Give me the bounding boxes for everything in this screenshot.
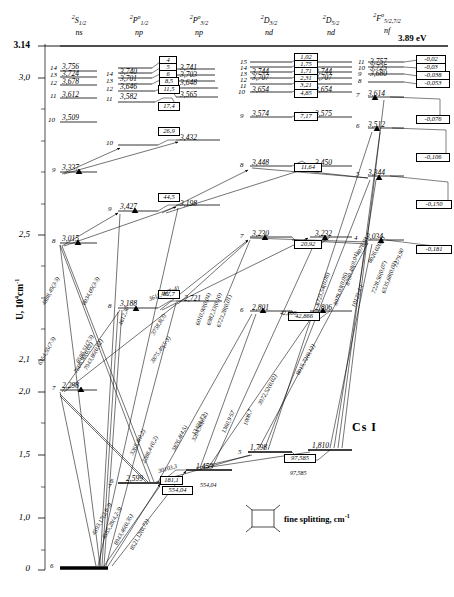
level-value-nf-9: 3,680	[370, 69, 387, 78]
y-tick-1-0: 1,0	[0, 513, 30, 522]
ionization-energy-label: 3.89 eV	[398, 33, 427, 43]
y-tick-2-5: 2,5	[0, 230, 30, 239]
config-np12: np	[108, 28, 170, 37]
fine-splitting-nd-5: 4,85	[294, 89, 318, 98]
level-value-np12-9: 3,427	[120, 202, 137, 211]
y-axis-title: U, 104cm-1	[14, 279, 25, 320]
level-n-ns-13: 13	[50, 71, 57, 79]
level-value-nd32-7: 3,230	[252, 229, 269, 238]
fine-splitting-np-4: 11,5	[158, 85, 180, 94]
fine-splitting-nf-6: -0,150	[416, 200, 452, 209]
level-value-nd32-6: 2,801	[252, 303, 269, 312]
y-tick-1-5: 1,5	[0, 450, 30, 459]
level-n-ns-8: 8	[52, 237, 56, 245]
transition-label: 42,866	[280, 310, 297, 316]
term-symbol-np12: 2Po1/2	[108, 14, 170, 26]
level-value-nf-5: 3,344	[368, 168, 385, 177]
y-tick-3-0: 3,0	[0, 73, 30, 82]
fine-splitting-nf-5: -0,106	[416, 153, 450, 162]
level-n-ns-7: 7	[52, 384, 56, 392]
level-value-ns-10: 3,509	[62, 113, 79, 122]
fine-splitting-np-10: 554,04	[162, 486, 193, 495]
fine-splitting-nd-7: 11,64	[294, 163, 322, 172]
level-value-np12-11: 3,582	[120, 92, 137, 101]
y-tick-0: 0	[0, 564, 30, 573]
y-tick-2-1: 2,1	[0, 355, 30, 364]
term-symbol-nd52: 2D5/2	[300, 14, 362, 26]
level-value-np32-8: 2,721	[184, 294, 201, 303]
level-value-ns-7: 2,298	[62, 381, 79, 390]
fine-splitting-np-7: 44,5	[158, 193, 180, 202]
level-n-ns-6: 6	[50, 562, 54, 570]
fine-splitting-np-6: 26,9	[158, 127, 180, 136]
level-n-np12-9: 9	[108, 205, 112, 213]
level-value-nd52-5: 1,810	[312, 441, 329, 450]
y-tick-3-14: 3.14	[0, 41, 30, 51]
y-tick-2-0: 2,0	[0, 387, 30, 396]
level-value-np12-12: 3,646	[120, 82, 137, 91]
level-n-ns-10: 10	[48, 116, 55, 124]
level-bars-np32	[176, 69, 232, 470]
term-symbol-nf: 2Fo5/2,7/2	[356, 12, 418, 24]
fine-splitting-nd-8: 20,92	[294, 240, 322, 249]
level-bars-np12	[118, 68, 160, 483]
level-n-nd32-5: 5	[238, 448, 242, 456]
level-n-nd32-6: 6	[240, 306, 244, 314]
column-header-nf: 2Fo5/2,7/2 nf	[356, 12, 418, 35]
legend-label: fine splitting, cm-1	[284, 513, 350, 524]
legend-symbol-icon	[246, 505, 280, 532]
transition-label: 554,04	[200, 482, 217, 488]
fine-splitting-nf-4: -0,076	[416, 115, 450, 124]
level-value-ns-9: 3,337	[62, 163, 79, 172]
level-n-nd32-10: 10	[238, 88, 245, 96]
level-value-np32-7: 1,453	[196, 462, 213, 471]
column-header-nd32: 2D3/2 nd	[238, 14, 300, 37]
level-value-ns-12: 3,678	[62, 77, 79, 86]
level-n-nd32-9: 9	[240, 112, 244, 120]
level-n-np12-6: 6	[110, 477, 114, 485]
transition-arrows	[60, 100, 384, 566]
column-header-nd52: 2D5/2 nd	[300, 14, 362, 37]
fine-splitting-np-9: 181,1	[160, 476, 183, 485]
level-n-np12-13: 13	[106, 77, 113, 85]
column-header-ns: 2S1/2 ns	[48, 14, 110, 37]
column-header-np32: 2Po3/2 np	[168, 14, 230, 37]
term-symbol-ns: 2S1/2	[48, 14, 110, 26]
config-np32: np	[168, 28, 230, 37]
level-value-np32-12: 3,648	[180, 78, 197, 87]
level-n-ns-9: 9	[52, 166, 56, 174]
fine-splitting-nd-10: 97,585	[284, 454, 316, 463]
level-value-np12-7: 2,599	[126, 474, 143, 483]
species-title: Cs I	[352, 420, 377, 435]
level-value-nd32-12: 3,707	[252, 73, 269, 82]
level-n-np12-8: 8	[108, 302, 112, 310]
level-value-nd52-7: 3,232	[315, 229, 332, 238]
level-n-np12-11: 11	[106, 95, 112, 103]
level-n-nf-7: 7	[356, 91, 360, 99]
level-value-np32-11: 3,565	[180, 90, 197, 99]
level-n-nf-4: 4	[354, 234, 358, 242]
level-n-ns-12: 12	[50, 79, 57, 87]
level-value-nd32-8: 3,448	[252, 158, 269, 167]
level-n-ns-11: 11	[50, 92, 56, 100]
level-value-nd32-9: 3,574	[252, 109, 269, 118]
config-nd52: nd	[300, 28, 362, 37]
column-header-np12: 2Po1/2 np	[108, 14, 170, 37]
level-value-nd32-5: 1,798	[250, 443, 267, 452]
level-value-nf-7: 3,614	[368, 89, 385, 98]
level-value-ns-8: 3,015	[62, 234, 79, 243]
level-bars-ns	[60, 71, 108, 568]
fine-splitting-nf-3: -0,053	[416, 79, 450, 88]
level-n-nd32-8: 8	[240, 161, 244, 169]
config-ns: ns	[48, 28, 110, 37]
fine-splitting-nf-7: -0,181	[416, 245, 452, 254]
level-n-np12-12: 12	[106, 85, 113, 93]
grotrian-diagram: 3.14 3,0 2,5 2,1 2,0 1,5 1,0 0 U, 104cm-…	[0, 0, 454, 597]
term-symbol-nd32: 2D3/2	[238, 14, 300, 26]
level-value-ns-11: 3,612	[62, 90, 79, 99]
level-n-nf-5: 5	[356, 170, 360, 178]
fine-splitting-np-5: 17,4	[158, 102, 180, 111]
level-n-nf-6: 6	[356, 122, 360, 130]
level-value-nd32-10: 3,654	[252, 85, 269, 94]
level-value-np32-9: 3,198	[180, 199, 197, 208]
